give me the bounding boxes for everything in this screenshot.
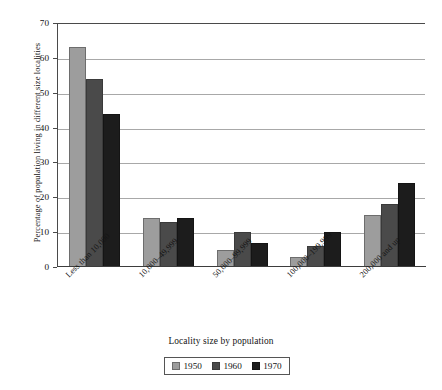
gridline xyxy=(58,94,425,95)
bar-1970-5 xyxy=(398,183,415,267)
bar-chart: Percentage of population living in diffe… xyxy=(0,0,442,390)
bar-1950-1 xyxy=(69,47,86,267)
y-axis-tick-label: 50 xyxy=(19,88,49,98)
legend-label: 1970 xyxy=(263,361,281,371)
legend-swatch-icon xyxy=(212,362,220,370)
y-axis-tick-label: 10 xyxy=(19,227,49,237)
y-axis-tick-mark xyxy=(53,232,57,233)
legend-label: 1960 xyxy=(223,361,241,371)
y-axis-tick-mark xyxy=(53,128,57,129)
y-axis-tick-mark xyxy=(53,197,57,198)
bar-1970-3 xyxy=(251,243,268,267)
x-axis-title: Locality size by population xyxy=(0,336,442,346)
bar-1970-1 xyxy=(103,114,120,267)
legend-swatch-icon xyxy=(172,362,180,370)
chart-legend: 195019601970 xyxy=(164,357,290,375)
y-axis-tick-label: 40 xyxy=(19,123,49,133)
y-axis-tick-mark xyxy=(53,58,57,59)
y-axis-tick-label: 70 xyxy=(19,18,49,28)
legend-label: 1950 xyxy=(184,361,202,371)
legend-item-1950[interactable]: 1950 xyxy=(172,361,202,371)
y-axis-tick-label: 60 xyxy=(19,53,49,63)
plot-area xyxy=(57,23,425,267)
legend-item-1960[interactable]: 1960 xyxy=(212,361,242,371)
gridline xyxy=(58,59,425,60)
y-axis-tick-mark xyxy=(53,23,57,24)
y-axis-tick-mark xyxy=(53,93,57,94)
y-axis-tick-label: 20 xyxy=(19,192,49,202)
y-axis-tick-mark xyxy=(53,162,57,163)
legend-swatch-icon xyxy=(252,362,260,370)
y-axis-tick-mark xyxy=(53,267,57,268)
y-axis-tick-label: 30 xyxy=(19,157,49,167)
legend-item-1970[interactable]: 1970 xyxy=(252,361,282,371)
y-axis-tick-label: 0 xyxy=(19,262,49,272)
